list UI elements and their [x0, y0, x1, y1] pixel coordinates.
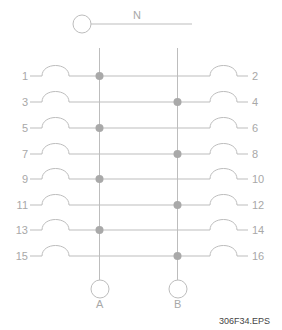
right-circuit-label: 6	[252, 122, 258, 134]
right-breaker-icon	[210, 144, 248, 155]
neutral-label: N	[133, 9, 141, 21]
right-circuit-label: 4	[252, 96, 258, 108]
left-breaker-icon	[30, 92, 210, 103]
bus-connection-node-icon	[96, 72, 104, 80]
right-circuit-label: 2	[252, 70, 258, 82]
left-breaker-icon	[30, 144, 210, 155]
left-circuit-label: 1	[22, 70, 28, 82]
breaker-row: 12	[22, 66, 258, 83]
terminal-b-circle-icon	[169, 280, 187, 298]
right-breaker-icon	[210, 66, 248, 77]
bus-a-label: A	[96, 298, 104, 310]
left-circuit-label: 3	[22, 96, 28, 108]
breaker-row: 34	[22, 92, 258, 109]
bus-connection-node-icon	[174, 252, 182, 260]
neutral-terminal: N	[73, 9, 192, 33]
breaker-row: 910	[22, 169, 264, 186]
right-circuit-label: 10	[252, 173, 264, 185]
right-breaker-icon	[210, 169, 248, 180]
breaker-row: 1314	[16, 220, 265, 237]
left-breaker-icon	[30, 66, 210, 77]
left-circuit-label: 13	[16, 224, 28, 236]
breaker-panel-diagram: N 12345678910111213141516 A B 306F34.EPS	[0, 0, 282, 330]
bus-connection-node-icon	[174, 98, 182, 106]
left-circuit-label: 5	[22, 122, 28, 134]
left-circuit-label: 11	[17, 199, 28, 211]
left-breaker-icon	[30, 220, 210, 231]
figure-id: 306F34.EPS	[219, 316, 270, 326]
right-breaker-icon	[210, 220, 248, 231]
breaker-row: 56	[22, 118, 258, 135]
right-circuit-label: 12	[252, 199, 264, 211]
breaker-row: 1516	[16, 246, 265, 263]
left-breaker-icon	[30, 118, 210, 129]
bus-connection-node-icon	[174, 150, 182, 158]
breaker-row: 1112	[17, 195, 265, 212]
right-breaker-icon	[210, 92, 248, 103]
bus-connection-node-icon	[96, 226, 104, 234]
right-circuit-label: 16	[252, 250, 264, 262]
left-breaker-icon	[30, 169, 210, 180]
right-breaker-icon	[210, 246, 248, 257]
bus-b-label: B	[174, 298, 181, 310]
bus-connection-node-icon	[96, 175, 104, 183]
left-circuit-label: 9	[22, 173, 28, 185]
left-circuit-label: 7	[22, 148, 28, 160]
left-breaker-icon	[30, 246, 210, 257]
bus-b-terminal: B	[169, 280, 187, 310]
right-breaker-icon	[210, 118, 248, 129]
right-circuit-label: 8	[252, 148, 258, 160]
neutral-circle-icon	[73, 15, 91, 33]
bus-connection-node-icon	[174, 201, 182, 209]
bus-connection-node-icon	[96, 124, 104, 132]
breaker-row: 78	[22, 144, 258, 161]
right-breaker-icon	[210, 195, 248, 206]
bus-a-terminal: A	[91, 280, 109, 310]
breaker-rows: 12345678910111213141516	[16, 66, 265, 263]
left-breaker-icon	[30, 195, 210, 206]
terminal-a-circle-icon	[91, 280, 109, 298]
left-circuit-label: 15	[16, 250, 28, 262]
right-circuit-label: 14	[252, 224, 264, 236]
